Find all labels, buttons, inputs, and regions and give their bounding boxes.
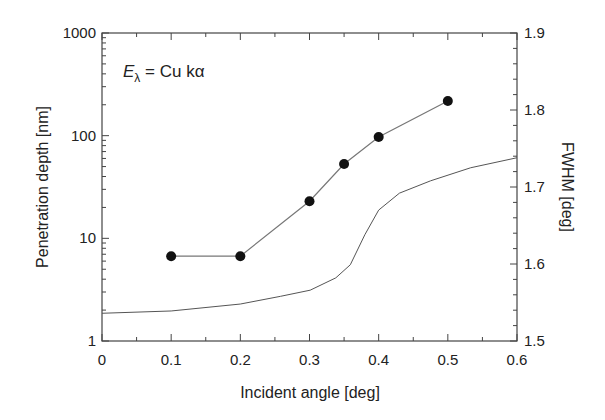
x-tick-label: 0.4	[368, 351, 389, 368]
y2-tick-label: 1.9	[524, 24, 545, 41]
x-tick-label: 0.3	[299, 351, 320, 368]
x-tick-label: 0	[98, 351, 106, 368]
y2-axis-label: FWHM [deg]	[559, 142, 576, 232]
depth-line	[171, 101, 448, 256]
y-tick-label: 1	[88, 332, 96, 349]
fwhm-curve	[102, 158, 517, 314]
x-tick-label: 0.5	[437, 351, 458, 368]
y-tick-label: 1000	[63, 24, 96, 41]
depth-marker	[443, 96, 453, 106]
depth-marker	[166, 251, 176, 261]
depth-marker	[305, 196, 315, 206]
x-tick-label: 0.1	[161, 351, 182, 368]
depth-marker	[235, 251, 245, 261]
depth-marker	[374, 132, 384, 142]
y2-tick-label: 1.8	[524, 101, 545, 118]
y2-tick-label: 1.5	[524, 332, 545, 349]
y-tick-label: 10	[79, 229, 96, 246]
y-axis-label: Penetration depth [nm]	[34, 106, 51, 268]
chart: 00.10.20.30.40.50.611010010001.51.61.71.…	[0, 0, 605, 420]
y2-tick-label: 1.7	[524, 178, 545, 195]
x-axis-label: Incident angle [deg]	[240, 384, 380, 401]
energy-annotation: Eλ = Cu kα	[123, 62, 205, 85]
x-tick-label: 0.2	[230, 351, 251, 368]
y-tick-label: 100	[71, 127, 96, 144]
x-tick-label: 0.6	[507, 351, 528, 368]
depth-marker	[339, 159, 349, 169]
y2-tick-label: 1.6	[524, 255, 545, 272]
